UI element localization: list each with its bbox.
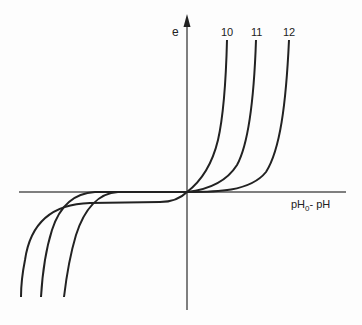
curve-10-right (187, 40, 227, 192)
curve-label-11: 11 (251, 26, 262, 38)
curve-12-right (187, 40, 289, 192)
curve-11-left (41, 192, 187, 297)
x-axis-label-rest: - pH (310, 198, 331, 210)
curve-12-left (64, 192, 187, 297)
chart-canvas: e 10 11 12 pH0- pH (0, 0, 362, 325)
x-axis-label-main: pH (291, 198, 305, 210)
curve-10-left (21, 192, 187, 297)
y-axis-arrow-icon (184, 14, 191, 27)
x-axis-label: pH0- pH (291, 198, 330, 213)
curve-label-10: 10 (221, 26, 233, 38)
y-axis-label: e (172, 25, 179, 39)
chart-figure: e 10 11 12 pH0- pH (0, 0, 362, 325)
curve-label-12: 12 (283, 26, 295, 38)
